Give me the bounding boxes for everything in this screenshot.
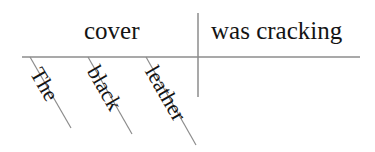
sentence-diagram: cover was cracking The black leather	[0, 0, 375, 152]
predicate-word: was cracking	[211, 18, 342, 43]
subject-word: cover	[84, 18, 140, 43]
